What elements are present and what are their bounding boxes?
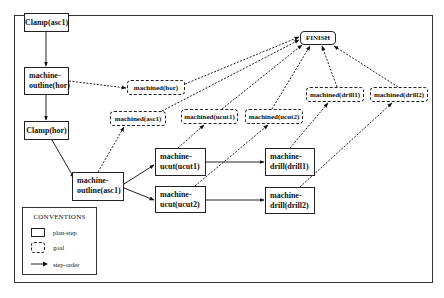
plan-step-machine-ucut-ucut2: machine- ucut(ucut2) [155, 186, 206, 213]
legend-title: CONVENTIONS [23, 213, 96, 221]
node-label-line1: machine- [270, 152, 310, 162]
node-label-line2: drill(drill2) [270, 201, 310, 211]
node-label: Clamp(asc1) [25, 18, 68, 28]
plan-step-machine-outline-hor: machine- outline(hor) [24, 67, 69, 95]
goal-label: machined(ucut1) [184, 112, 235, 122]
goal-machined-asc1: machined(asc1) [110, 111, 166, 126]
goal-label: machined(asc1) [115, 114, 162, 124]
node-label: Clamp(hor) [26, 126, 66, 136]
finish-label: FINISH [306, 33, 330, 43]
legend-item-step-order: step-order [31, 258, 79, 270]
node-label-line1: machine- [160, 152, 201, 162]
plan-step-machine-drill-drill1: machine- drill(drill1) [265, 148, 315, 176]
plan-step-clamp-asc1: Clamp(asc1) [24, 13, 69, 32]
goal-label: machined(hor) [134, 83, 178, 93]
goal-machined-ucut2: machined(ucut2) [245, 109, 303, 124]
legend-item-goal: goal [31, 241, 64, 253]
goal-machined-ucut1: machined(ucut1) [181, 109, 238, 124]
plan-step-swatch-icon [31, 228, 45, 237]
arrow-icon [31, 260, 49, 268]
node-label-line2: ucut(ucut2) [160, 200, 201, 210]
legend-item-plan-step: plan-step [31, 226, 77, 238]
goal-machined-drill2: machined(drill2) [370, 87, 428, 102]
node-label-line2: outline(asc1) [77, 186, 119, 196]
node-label-line1: machine- [77, 176, 119, 186]
legend-label: plan-step [53, 229, 77, 236]
plan-step-machine-ucut-ucut1: machine- ucut(ucut1) [155, 148, 206, 176]
node-label-line2: outline(hor) [29, 81, 64, 91]
node-label-line1: machine- [29, 71, 64, 81]
node-label-line2: drill(drill1) [270, 162, 310, 172]
node-label-line2: ucut(ucut1) [160, 162, 201, 172]
conventions-legend: CONVENTIONS plan-step goal step-order [22, 207, 97, 275]
plan-step-machine-drill-drill2: machine- drill(drill2) [265, 187, 315, 214]
plan-step-machine-outline-asc1: machine- outline(asc1) [72, 172, 124, 201]
goal-machined-hor: machined(hor) [127, 80, 185, 95]
legend-label: step-order [53, 261, 79, 268]
goal-label: machined(drill1) [310, 90, 360, 100]
goal-label: machined(drill2) [374, 90, 424, 100]
goal-label: machined(ucut2) [249, 112, 300, 122]
node-label-line1: machine- [160, 190, 201, 200]
finish-node: FINISH [300, 31, 336, 45]
plan-step-clamp-hor: Clamp(hor) [24, 121, 69, 140]
goal-machined-drill1: machined(drill1) [306, 87, 364, 102]
goal-swatch-icon [31, 242, 45, 253]
legend-label: goal [53, 244, 64, 251]
node-label-line1: machine- [270, 191, 310, 201]
